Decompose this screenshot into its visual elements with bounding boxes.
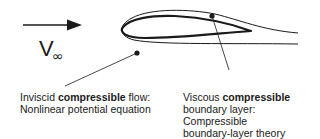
- caption-line: Compressible: [183, 115, 290, 127]
- caption-line: Viscous compressible: [183, 91, 290, 103]
- freestream-arrow: [23, 20, 82, 31]
- freestream-infinity-subscript: ∞: [52, 49, 64, 63]
- viscous-boundary-layer-caption: Viscous compressible boundary layer: Com…: [183, 91, 290, 139]
- caption-line: boundary-layer theory: [183, 127, 290, 139]
- inviscid-callout: [65, 50, 140, 86]
- airfoil-shape: [122, 16, 251, 38]
- caption-line: boundary layer:: [183, 103, 290, 115]
- caption-line: Inviscid compressible flow:: [20, 91, 151, 103]
- caption-line: Nonlinear potential equation: [20, 103, 151, 115]
- inviscid-flow-caption: Inviscid compressible flow: Nonlinear po…: [20, 91, 151, 115]
